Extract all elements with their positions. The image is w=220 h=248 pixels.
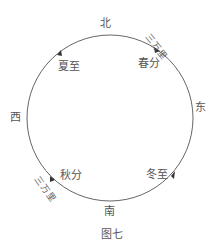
- spring-equinox-label: 春分: [138, 58, 160, 70]
- north-label: 北: [100, 18, 111, 30]
- east-label: 东: [195, 102, 206, 114]
- summer-solstice-label: 夏至: [58, 61, 80, 73]
- orbit-circle: [27, 35, 193, 201]
- figure-caption: 图七: [101, 229, 123, 241]
- west-label: 西: [10, 112, 21, 124]
- autumn-equinox-label: 秋分: [60, 170, 82, 182]
- winter-solstice-label: 冬至: [146, 169, 168, 181]
- south-label: 南: [104, 206, 115, 218]
